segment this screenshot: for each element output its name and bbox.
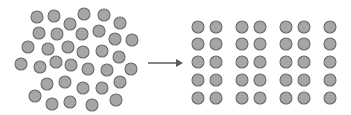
particle xyxy=(51,28,63,40)
particle xyxy=(86,99,98,111)
particle-ordering-diagram xyxy=(0,0,351,115)
particle xyxy=(76,28,88,40)
particle xyxy=(77,82,89,94)
particle xyxy=(98,9,110,21)
particle xyxy=(77,46,89,58)
particle xyxy=(64,96,76,108)
grid-particle xyxy=(280,92,292,104)
particle xyxy=(64,18,76,30)
grid-particle xyxy=(280,21,292,33)
particle xyxy=(50,56,62,68)
grid-particle xyxy=(254,21,266,33)
grid-particle xyxy=(236,56,248,68)
particle xyxy=(110,94,122,106)
grid-particle xyxy=(192,56,204,68)
particle xyxy=(15,58,27,70)
grid-particle xyxy=(324,74,336,86)
particle xyxy=(109,33,121,45)
grid-particle xyxy=(236,74,248,86)
grid-particle xyxy=(298,21,310,33)
grid-particle xyxy=(192,92,204,104)
grid-particle xyxy=(324,92,336,104)
grid-particle xyxy=(254,56,266,68)
particle xyxy=(31,11,43,23)
grid-particle xyxy=(280,56,292,68)
particle xyxy=(113,51,125,63)
particle xyxy=(78,8,90,20)
grid-particle xyxy=(236,92,248,104)
arrow-icon xyxy=(148,59,183,67)
grid-particle xyxy=(254,92,266,104)
grid-particle xyxy=(210,92,222,104)
grid-particle xyxy=(210,38,222,50)
grid-particle xyxy=(254,74,266,86)
particle xyxy=(33,27,45,39)
particle xyxy=(29,90,41,102)
grid-particle xyxy=(236,38,248,50)
grid-particle xyxy=(192,74,204,86)
particle xyxy=(59,76,71,88)
grid-particle xyxy=(298,92,310,104)
particle xyxy=(126,34,138,46)
disordered-particles xyxy=(15,8,138,111)
grid-particle xyxy=(280,74,292,86)
particle xyxy=(42,43,54,55)
particle xyxy=(82,63,94,75)
particle xyxy=(22,41,34,53)
particle xyxy=(114,17,126,29)
particle xyxy=(41,78,53,90)
particle xyxy=(65,59,77,71)
grid-particle xyxy=(298,56,310,68)
particle xyxy=(34,61,46,73)
grid-particle xyxy=(324,56,336,68)
grid-particle xyxy=(298,38,310,50)
ordered-particle-grid xyxy=(192,21,336,104)
grid-particle xyxy=(324,21,336,33)
particle xyxy=(93,25,105,37)
particle xyxy=(101,64,113,76)
diagram-canvas xyxy=(0,0,351,115)
grid-particle xyxy=(210,56,222,68)
grid-particle xyxy=(210,21,222,33)
grid-particle xyxy=(192,21,204,33)
grid-particle xyxy=(192,38,204,50)
particle xyxy=(96,82,108,94)
grid-particle xyxy=(298,74,310,86)
grid-particle xyxy=(254,38,266,50)
particle xyxy=(62,41,74,53)
particle xyxy=(46,98,58,110)
grid-particle xyxy=(236,21,248,33)
arrow-head xyxy=(176,59,183,67)
particle xyxy=(114,76,126,88)
grid-particle xyxy=(210,74,222,86)
particle xyxy=(96,45,108,57)
particle xyxy=(48,10,60,22)
particle xyxy=(125,63,137,75)
grid-particle xyxy=(280,38,292,50)
grid-particle xyxy=(324,38,336,50)
